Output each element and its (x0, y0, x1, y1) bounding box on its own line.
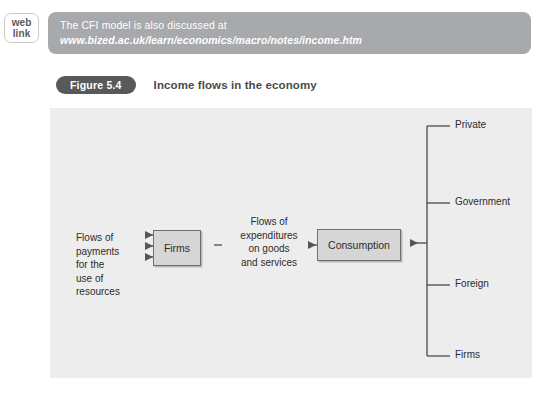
web-link-banner-url[interactable]: www.bized.ac.uk/learn/economics/macro/no… (60, 33, 531, 48)
branch-label-government: Government (455, 196, 510, 207)
figure-title: Income flows in the economy (154, 79, 317, 91)
web-link-banner-text: The CFI model is also discussed at (60, 18, 531, 33)
web-link-badge: web link (4, 13, 39, 43)
branch-label-foreign: Foreign (455, 278, 489, 289)
web-link-badge-line1: web (12, 17, 32, 28)
figure-diagram-panel: Firms Consumption Flows of payments for … (50, 108, 532, 378)
node-consumption: Consumption (317, 229, 401, 261)
branch-label-private: Private (455, 119, 486, 130)
figure-number-badge: Figure 5.4 (56, 76, 136, 94)
node-firms-label: Firms (164, 242, 190, 254)
label-flows-of-expenditures: Flows of expenditures on goods and servi… (227, 215, 311, 269)
figure-caption: Figure 5.4 Income flows in the economy (56, 76, 317, 94)
web-link-banner: The CFI model is also discussed at www.b… (48, 12, 531, 54)
web-link-badge-line2: link (13, 28, 31, 39)
branch-label-firms: Firms (455, 349, 480, 360)
node-consumption-label: Consumption (328, 239, 390, 251)
label-flows-of-payments: Flows of payments for the use of resourc… (76, 231, 142, 299)
node-firms: Firms (153, 230, 201, 266)
